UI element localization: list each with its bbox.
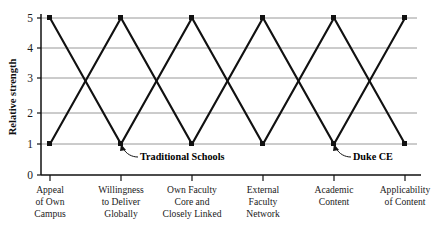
marker-traditional-4 <box>260 141 265 146</box>
series-duke-ce <box>47 15 407 146</box>
x-tick-marks <box>50 175 405 181</box>
x-tick-label-2-line-2: to Deliver <box>102 196 141 207</box>
y-tick-label-5: 5 <box>27 12 33 24</box>
x-tick-label-group-4: External Faculty Network <box>246 184 280 219</box>
y-tick-label-0: 0 <box>27 169 33 181</box>
y-tick-label-1: 1 <box>27 138 33 150</box>
x-tick-label-3-line-2: Core and <box>175 196 210 207</box>
x-tick-label-group-6: Applicability of Content <box>380 184 431 207</box>
marker-duke-3 <box>189 141 194 146</box>
y-tick-label-4: 4 <box>27 42 33 54</box>
gridlines <box>41 18 417 144</box>
marker-duke-2 <box>118 15 123 20</box>
x-tick-label-1-line-1: Appeal <box>36 184 64 195</box>
x-tick-label-1-line-2: of Own <box>35 196 64 207</box>
annotation-duke-ce: Duke CE <box>333 144 393 162</box>
x-tick-label-5-line-1: Academic <box>315 184 354 195</box>
marker-traditional-1 <box>47 15 52 20</box>
marker-traditional-2 <box>118 141 123 146</box>
x-tick-labels: Appeal of Own Campus Willingness to Deli… <box>34 184 430 219</box>
series-duke-ce-line <box>50 18 405 144</box>
x-tick-label-4-line-3: Network <box>246 208 280 219</box>
y-axis-title: Relative strength <box>7 59 18 136</box>
x-tick-label-4-line-2: Faculty <box>249 196 278 207</box>
x-tick-label-1-line-3: Campus <box>34 208 66 219</box>
x-tick-label-group-2: Willingness to Deliver Globally <box>98 184 144 219</box>
x-tick-label-4-line-1: External <box>247 184 280 195</box>
x-tick-label-group-3: Own Faculty Core and Closely Linked <box>163 184 222 219</box>
marker-duke-4 <box>260 15 265 20</box>
marker-duke-1 <box>47 141 52 146</box>
marker-traditional-5 <box>331 15 336 20</box>
y-tick-label-3: 3 <box>27 72 33 84</box>
y-tick-labels: 5 4 3 2 1 0 <box>27 12 33 181</box>
x-tick-label-6-line-1: Applicability <box>380 184 431 195</box>
x-tick-label-2-line-1: Willingness <box>98 184 144 195</box>
x-tick-label-3-line-1: Own Faculty <box>167 184 217 195</box>
x-tick-label-5-line-2: Content <box>319 196 350 207</box>
annotation-traditional-schools: Traditional Schools <box>120 144 224 162</box>
y-tick-label-2: 2 <box>27 107 33 119</box>
x-tick-label-group-5: Academic Content <box>315 184 354 207</box>
marker-traditional-6 <box>402 141 407 146</box>
relative-strength-line-chart: 5 4 3 2 1 0 Relative strength <box>0 0 431 229</box>
annotation-traditional-label: Traditional Schools <box>140 151 224 162</box>
marker-duke-6 <box>402 15 407 20</box>
marker-duke-5 <box>331 141 336 146</box>
x-tick-label-6-line-2: of Content <box>385 196 426 207</box>
marker-traditional-3 <box>189 15 194 20</box>
chart-container: 5 4 3 2 1 0 Relative strength <box>0 0 431 229</box>
x-tick-label-2-line-3: Globally <box>104 208 138 219</box>
x-tick-label-group-1: Appeal of Own Campus <box>34 184 66 219</box>
annotation-duke-label: Duke CE <box>353 151 393 162</box>
x-tick-label-3-line-3: Closely Linked <box>163 208 222 219</box>
